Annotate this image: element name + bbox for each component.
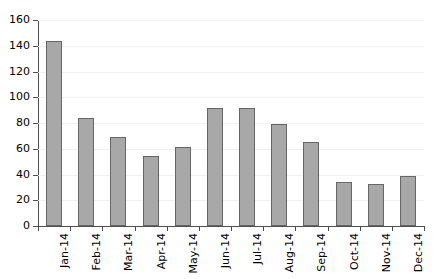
x-axis-tick-mark (328, 227, 329, 231)
gridline (38, 149, 424, 150)
bar (368, 184, 384, 226)
x-axis-tick-label: Oct-14 (349, 233, 360, 270)
x-axis-tick-mark (167, 227, 168, 231)
x-axis-tick-label: Nov-14 (381, 233, 392, 272)
bar (207, 108, 223, 226)
gridline (38, 200, 424, 201)
x-axis-tick-mark (295, 227, 296, 231)
y-axis-tick-label: 120 (9, 66, 30, 77)
bar (400, 176, 416, 226)
bar (175, 147, 191, 226)
gridline (38, 175, 424, 176)
x-axis-tick-mark (102, 227, 103, 231)
y-axis-tick-label: 80 (16, 117, 30, 128)
y-axis-tick-label: 20 (16, 194, 30, 205)
x-axis-tick-mark (70, 227, 71, 231)
x-axis-tick-label: Sep-14 (316, 233, 327, 272)
bar (336, 182, 352, 226)
y-axis-tick-label: 40 (16, 169, 30, 180)
x-axis-tick-label: Jun-14 (220, 233, 231, 268)
bar (143, 156, 159, 226)
bar (303, 142, 319, 226)
bar-chart-figure: 020406080100120140160 Jan-14Feb-14Mar-14… (0, 0, 440, 279)
plot-area (38, 20, 424, 226)
bar (110, 137, 126, 226)
x-axis-tick-mark (424, 227, 425, 231)
x-axis-tick-label: Jan-14 (59, 233, 70, 268)
x-axis-tick-mark (392, 227, 393, 231)
bar (78, 118, 94, 226)
bar (271, 124, 287, 226)
bar (46, 41, 62, 226)
x-axis-tick-mark (38, 227, 39, 231)
y-axis-tick-label: 60 (16, 143, 30, 154)
x-axis-tick-label: Aug-14 (284, 233, 295, 272)
x-axis-tick-label: Apr-14 (156, 233, 167, 269)
x-axis-tick-label: Dec-14 (413, 233, 424, 272)
x-axis-tick-label: Jul-14 (252, 233, 263, 264)
y-axis-tick-label: 100 (9, 91, 30, 102)
x-axis-tick-mark (263, 227, 264, 231)
y-axis-tick-label: 160 (9, 14, 30, 25)
x-axis-tick-mark (199, 227, 200, 231)
x-axis-tick-label: Mar-14 (123, 233, 134, 271)
x-axis-tick-mark (231, 227, 232, 231)
gridline (38, 72, 424, 73)
gridline (38, 97, 424, 98)
gridline (38, 46, 424, 47)
x-axis-tick-mark (360, 227, 361, 231)
gridline (38, 20, 424, 21)
x-axis-tick-mark (135, 227, 136, 231)
bar (239, 108, 255, 226)
gridline (38, 123, 424, 124)
y-axis-tick-label: 140 (9, 40, 30, 51)
y-axis-tick-label: 0 (23, 220, 30, 231)
x-axis-tick-label: Feb-14 (91, 233, 102, 270)
x-axis-tick-label: May-14 (188, 233, 199, 274)
